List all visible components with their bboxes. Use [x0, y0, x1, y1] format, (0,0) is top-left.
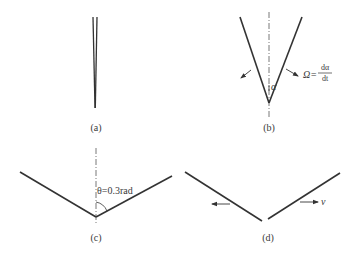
caption-d: (d): [262, 232, 274, 244]
rate-lhs: Ω=: [303, 69, 317, 80]
rate-denominator: dt: [322, 74, 329, 83]
angle-theta-label: θ=0.3rad: [97, 185, 133, 196]
face-right: [268, 173, 340, 219]
crack-face-right: [95, 17, 97, 108]
angle-alpha: α: [271, 81, 277, 92]
velocity-v: v: [321, 196, 326, 207]
caption-c: (c): [90, 232, 101, 244]
rate-numerator: dα: [321, 63, 330, 72]
rotation-arrow-left-icon: [241, 70, 251, 78]
rotation-arrow-right-icon: [286, 69, 298, 76]
angle-arc: [96, 202, 107, 211]
panel-a: (a): [90, 17, 101, 134]
panel-c: θ=0.3rad (c): [20, 148, 172, 244]
panel-b: α Ω= dα dt (b): [240, 12, 332, 134]
face-left: [185, 172, 262, 221]
face-right: [96, 176, 172, 217]
crack-face-left: [93, 17, 95, 108]
face-left: [20, 172, 96, 217]
face-left: [240, 17, 269, 103]
panel-d: v (d): [185, 172, 340, 244]
figure-canvas: (a) α Ω= dα dt (b) θ=0.3rad (c) v (d): [0, 0, 358, 257]
caption-a: (a): [90, 122, 101, 134]
caption-b: (b): [263, 122, 275, 134]
